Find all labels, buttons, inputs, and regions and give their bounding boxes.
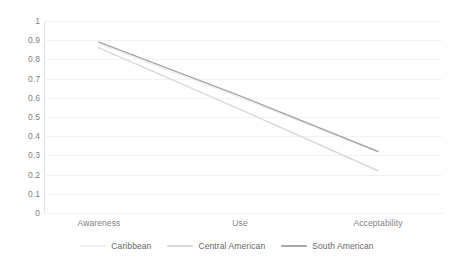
legend-item[interactable]: Central American bbox=[167, 242, 265, 251]
plot-area bbox=[44, 21, 442, 213]
legend-item-label: Caribbean bbox=[111, 242, 151, 251]
y-axis-tick-label: 0.8 bbox=[4, 55, 40, 64]
legend-item[interactable]: Caribbean bbox=[80, 242, 151, 251]
y-axis-tick-label: 0.7 bbox=[4, 75, 40, 84]
series-layer bbox=[44, 21, 442, 213]
x-axis-tick-label: Use bbox=[232, 219, 247, 228]
y-axis-tick-label: 0.4 bbox=[4, 132, 40, 141]
gridline bbox=[44, 213, 442, 214]
y-axis-tick-label: 0.6 bbox=[4, 94, 40, 103]
legend-line-icon bbox=[167, 245, 193, 247]
y-axis-tick-label: 0.1 bbox=[4, 190, 40, 199]
series-line bbox=[99, 48, 378, 171]
y-axis-tick-label: 0 bbox=[4, 209, 40, 218]
x-axis-labels: AwarenessUseAcceptability bbox=[44, 219, 442, 233]
legend-line-icon bbox=[281, 245, 307, 247]
y-axis-labels: 10.90.80.70.60.50.40.30.20.10 bbox=[0, 21, 40, 213]
chart-legend: CaribbeanCentral AmericanSouth American bbox=[0, 238, 454, 254]
y-axis-tick-label: 0.3 bbox=[4, 151, 40, 160]
y-axis-tick-label: 0.5 bbox=[4, 113, 40, 122]
legend-item-label: South American bbox=[312, 242, 373, 251]
legend-line-icon bbox=[80, 245, 106, 247]
x-axis-tick-label: Awareness bbox=[78, 219, 121, 228]
legend-item-label: Central American bbox=[198, 242, 265, 251]
y-axis-tick-label: 0.9 bbox=[4, 36, 40, 45]
y-axis-tick-label: 0.2 bbox=[4, 171, 40, 180]
legend-item[interactable]: South American bbox=[281, 242, 373, 251]
y-axis-tick-label: 1 bbox=[4, 17, 40, 26]
x-axis-tick-label: Acceptability bbox=[353, 219, 402, 228]
line-chart: 10.90.80.70.60.50.40.30.20.10 AwarenessU… bbox=[0, 0, 454, 265]
